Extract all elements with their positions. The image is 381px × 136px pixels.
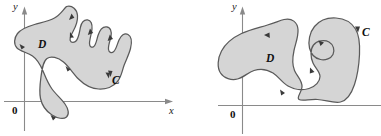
right-panel-region-curve [218,18,360,102]
direction-arrow [280,90,285,96]
left-panel-origin-label: 0 [12,104,18,116]
right-panel: C D y 0 [218,1,381,134]
right-panel-curve-label: C [362,26,370,38]
right-panel-y-axis-label: y [231,1,237,12]
left-panel-curve-label: C [112,74,120,86]
direction-arrow [310,68,315,74]
right-panel-origin-label: 0 [230,108,236,120]
left-panel-y-axis-label: y [12,1,18,12]
left-panel-y-axis [22,7,27,132]
left-panel-x-axis [4,99,173,104]
right-panel-y-axis-arrowhead [240,7,245,15]
greens-theorem-figure: C D y x 0 C [0,0,381,136]
right-panel-region-label: D [265,52,275,64]
left-panel: C D y x 0 [4,1,174,131]
left-panel-y-axis-arrowhead [22,7,27,15]
left-panel-x-axis-label: x [168,105,174,116]
left-panel-region-label: D [37,38,47,50]
left-panel-x-axis-arrowhead [165,99,173,104]
